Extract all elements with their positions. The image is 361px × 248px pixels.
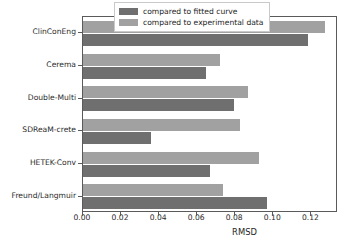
y-tick-label: Double-Multi xyxy=(28,94,76,102)
legend-swatch-fitted-curve xyxy=(119,8,138,15)
legend-label-experimental-data: compared to experimental data xyxy=(143,19,264,27)
legend-swatch-experimental-data xyxy=(119,19,138,26)
bar-experimental-data xyxy=(83,184,223,196)
x-tick-mark xyxy=(82,212,83,216)
x-axis-tick-labels: 0.000.020.040.060.080.100.12 xyxy=(0,214,361,228)
legend-item-fitted-curve: compared to fitted curve xyxy=(119,6,264,17)
bar-fitted-curve xyxy=(83,197,267,209)
bar-experimental-data xyxy=(83,119,240,131)
y-tick-mark xyxy=(78,130,82,131)
y-tick-label: ClinConEng xyxy=(32,29,76,37)
x-tick-mark xyxy=(120,212,121,216)
bar-experimental-data xyxy=(83,54,220,66)
x-tick-mark xyxy=(196,212,197,216)
chart-legend: compared to fitted curve compared to exp… xyxy=(114,2,270,32)
y-tick-mark xyxy=(78,65,82,66)
y-tick-label: Freund/Langmuir xyxy=(12,192,76,200)
x-axis-label-text: RMSD xyxy=(232,227,257,237)
bar-fitted-curve xyxy=(83,67,206,79)
x-tick-mark xyxy=(310,212,311,216)
bar-fitted-curve xyxy=(83,165,210,177)
bar-fitted-curve xyxy=(83,132,151,144)
bar-fitted-curve xyxy=(83,99,234,111)
y-tick-label: Cerema xyxy=(46,61,76,69)
y-tick-label: HETEK-Conv xyxy=(30,159,76,167)
y-axis-tick-labels: ClinConEngCeremaDouble-MultiSDReaM-crete… xyxy=(0,16,76,212)
bar-fitted-curve xyxy=(83,34,308,46)
plot-area xyxy=(82,16,337,212)
legend-item-experimental-data: compared to experimental data xyxy=(119,17,264,28)
y-tick-mark xyxy=(78,32,82,33)
x-tick-mark xyxy=(158,212,159,216)
bar-experimental-data xyxy=(83,152,259,164)
bar-chart-figure: ClinConEngCeremaDouble-MultiSDReaM-crete… xyxy=(0,0,361,248)
y-tick-mark xyxy=(78,196,82,197)
x-tick-mark xyxy=(272,212,273,216)
bar-experimental-data xyxy=(83,86,248,98)
x-axis-label: RMSD xyxy=(0,228,361,236)
x-tick-mark xyxy=(234,212,235,216)
y-tick-mark xyxy=(78,163,82,164)
y-tick-mark xyxy=(78,98,82,99)
y-tick-label: SDReaM-crete xyxy=(22,127,76,135)
legend-label-fitted-curve: compared to fitted curve xyxy=(143,8,238,16)
